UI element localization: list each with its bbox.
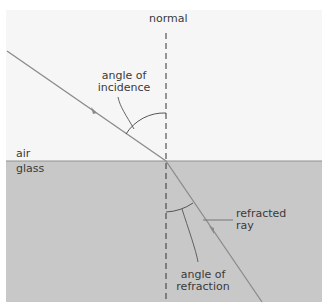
refracted-line2: ray xyxy=(236,220,286,232)
air-region xyxy=(6,10,322,161)
angle-of-refraction-label: angle of refraction xyxy=(170,269,236,293)
refracted-ray-label: refracted ray xyxy=(236,208,286,232)
refraction-line2: refraction xyxy=(170,281,236,293)
refraction-diagram xyxy=(0,0,324,307)
air-label: air xyxy=(16,148,30,160)
angle-of-incidence-label: angle of incidence xyxy=(88,70,160,94)
glass-label: glass xyxy=(16,163,44,175)
normal-label: normal xyxy=(149,13,188,25)
incidence-line2: incidence xyxy=(88,82,160,94)
